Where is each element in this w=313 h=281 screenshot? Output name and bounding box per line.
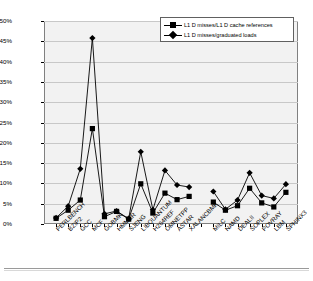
square-data-point	[90, 126, 95, 131]
square-data-point	[174, 197, 179, 202]
square-data-point	[187, 194, 192, 199]
square-data-point	[247, 186, 252, 191]
square-data-point	[138, 181, 143, 186]
diamond-data-point	[138, 149, 144, 155]
square-data-point	[283, 190, 288, 195]
chart-legend: L1 D misses/L1 D cache references L1 D m…	[160, 17, 294, 42]
legend-label-0: L1 D misses/L1 D cache references	[184, 22, 273, 28]
legend-item-1: L1 D misses/graduated loads	[164, 30, 290, 40]
diamond-data-point	[186, 184, 192, 190]
series-line	[56, 38, 189, 219]
square-data-point	[78, 197, 83, 202]
series-l1d-misses-per-cache-references	[54, 126, 289, 222]
square-data-point	[259, 200, 264, 205]
square-data-point	[271, 204, 276, 209]
square-data-point	[211, 199, 216, 204]
series-line	[213, 173, 286, 210]
series-l1d-misses-per-graduated-loads	[53, 35, 289, 222]
square-data-point	[235, 203, 240, 208]
series-line	[56, 129, 189, 220]
footer-divider-shadow	[4, 270, 309, 271]
chart-surface: 0%5%10%15%20%25%30%35%40%45%50% PERLBENC…	[0, 0, 313, 262]
legend-item-0: L1 D misses/L1 D cache references	[164, 20, 290, 30]
diamond-data-point	[77, 166, 83, 172]
chart-figure: 0%5%10%15%20%25%30%35%40%45%50% PERLBENC…	[0, 0, 313, 281]
diamond-data-point	[247, 170, 253, 176]
diamond-data-point	[89, 35, 95, 41]
diamond-data-point	[210, 188, 216, 194]
diamond-marker-icon	[164, 31, 182, 39]
diamond-data-point	[259, 192, 265, 198]
square-data-point	[162, 191, 167, 196]
square-marker-icon	[164, 21, 182, 29]
footer-divider	[4, 268, 309, 269]
legend-label-1: L1 D misses/graduated loads	[184, 32, 256, 38]
